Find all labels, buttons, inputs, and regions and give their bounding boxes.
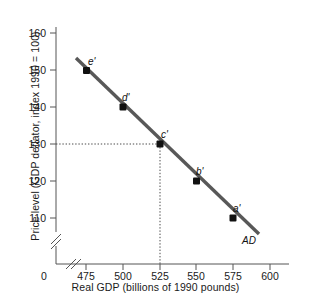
x-tick-label-525: 525 — [144, 270, 176, 282]
y-tick-label-150: 150 — [14, 64, 46, 76]
point-label-d: d' — [122, 92, 129, 103]
chart-figure: Price level (GDP deflator, index 1990 = … — [0, 0, 311, 302]
x-tick-label-500: 500 — [107, 270, 139, 282]
y-tick-label-120: 120 — [14, 175, 46, 187]
x-tick-label-550: 550 — [180, 270, 212, 282]
plot-area — [0, 0, 311, 302]
origin-label: 0 — [36, 270, 52, 282]
data-point-c — [157, 141, 164, 148]
x-tick-label-475: 475 — [70, 270, 102, 282]
data-point-b — [193, 178, 200, 185]
data-point-markers — [83, 67, 237, 222]
x-axis-label: Real GDP (billions of 1990 pounds) — [0, 281, 311, 293]
ad-curve-line — [76, 58, 259, 234]
x-tick-label-600: 600 — [254, 270, 286, 282]
y-tick-label-160: 160 — [14, 27, 46, 39]
y-axis-ticks — [50, 33, 56, 218]
point-label-c: c' — [161, 129, 168, 140]
y-tick-label-110: 110 — [14, 212, 46, 224]
data-point-e — [83, 67, 90, 74]
ad-curve-label: AD — [242, 235, 256, 246]
point-label-e: e' — [88, 56, 95, 67]
y-tick-label-140: 140 — [14, 101, 46, 113]
x-tick-label-575: 575 — [217, 270, 249, 282]
data-point-d — [120, 104, 127, 111]
y-tick-label-130: 130 — [14, 138, 46, 150]
point-label-b: b' — [196, 166, 203, 177]
data-point-a — [230, 215, 237, 222]
y-axis-label: Price level (GDP deflator, index 1990 = … — [29, 31, 41, 241]
point-label-a: a' — [233, 203, 240, 214]
